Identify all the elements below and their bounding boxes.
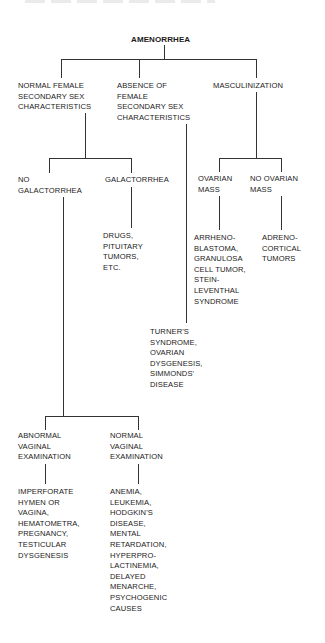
connector-to-no-galactorrhea	[49, 158, 50, 173]
connector-ovarian-to-arrheno	[219, 196, 220, 230]
connector-ovarian-bar	[219, 158, 282, 159]
connector-to-normal-vaginal	[138, 416, 139, 430]
node-ovarian-mass: OVARIAN MASS	[198, 174, 232, 195]
cropped-header-text	[25, 0, 215, 3]
node-drugs: DRUGS, PITUITARY TUMORS, ETC.	[103, 231, 143, 273]
connector-abnormal-to-imperforate	[45, 464, 46, 484]
node-abnormal-vaginal: ABNORMAL VAGINAL EXAMINATION	[18, 431, 71, 463]
connector-normal-female-down	[85, 113, 86, 158]
connector-masculinization-down	[256, 92, 257, 158]
node-no-ovarian-mass: NO OVARIAN MASS	[250, 174, 298, 195]
connector-to-abnormal-vaginal	[45, 416, 46, 430]
connector-to-galactorrhea	[131, 158, 132, 173]
node-galactorrhea: GALACTORRHEA	[105, 175, 169, 186]
connector-to-absence	[139, 59, 140, 78]
connector-to-masculinization	[256, 59, 257, 78]
connector-no-ovarian-to-adreno	[281, 196, 282, 230]
connector-vaginal-bar	[45, 416, 139, 417]
node-adrenocortical: ADRENO- CORTICAL TUMORS	[262, 233, 301, 265]
node-turners: TURNER'S SYNDROME, OVARIAN DYSGENESIS, S…	[150, 327, 203, 391]
connector-to-no-ovarian-mass	[281, 158, 282, 172]
node-normal-female: NORMAL FEMALE SECONDARY SEX CHARACTERIST…	[18, 81, 91, 113]
connector-root-bar	[61, 59, 257, 60]
connector-root-down	[164, 45, 165, 59]
node-no-galactorrhea: NO GALACTORRHEA	[18, 175, 82, 196]
node-anemia: ANEMIA, LEUKEMIA, HODGKIN'S DISEASE, MEN…	[110, 487, 167, 614]
connector-galactorrhea-bar	[49, 158, 132, 159]
connector-normal-to-anemia	[138, 464, 139, 484]
connector-absence-to-turners	[186, 124, 187, 323]
node-imperforate: IMPERFORATE HYMEN OR VAGINA, HEMATOMETRA…	[18, 487, 80, 561]
connector-to-normal-female	[61, 59, 62, 78]
node-masculinization: MASCULINIZATION	[213, 81, 283, 92]
node-arrhenoblastoma: ARRHENO- BLASTOMA, GRANULOSA CELL TUMOR,…	[194, 233, 246, 307]
connector-galactorrhea-to-drugs	[131, 187, 132, 228]
node-absence-female: ABSENCE OF FEMALE SECONDARY SEX CHARACTE…	[117, 81, 190, 123]
node-normal-vaginal: NORMAL VAGINAL EXAMINATION	[110, 431, 163, 463]
node-amenorrhea: AMENORRHEA	[131, 35, 190, 46]
connector-to-ovarian-mass	[219, 158, 220, 172]
connector-no-galactorrhea-down	[63, 197, 64, 416]
